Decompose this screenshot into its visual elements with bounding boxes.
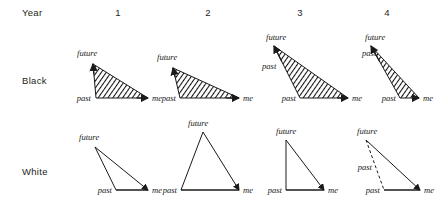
vertex-label-me-black-year-2: me <box>243 93 253 103</box>
vertex-label-future-white-year-2: future <box>188 118 208 128</box>
vertex-label-past-white-year-2: past <box>162 185 178 195</box>
vertex-label-past-black-year-3: past <box>261 61 277 71</box>
panel-white-year-4 <box>366 140 420 190</box>
vertex-label-future-black-year-1: future <box>77 48 97 58</box>
triangle-black-year-3 <box>274 46 348 98</box>
vertex-label-past-white-year-4: past <box>365 185 381 195</box>
vertex-label-past-white-year-3: past <box>267 185 283 195</box>
edge-future-past-white-year-2 <box>181 132 203 190</box>
vertex-label-past-black-year-2: past <box>161 93 177 103</box>
vertex-label-me-white-year-3: me <box>328 185 338 195</box>
vertex-label-me-white-year-2: me <box>243 185 253 195</box>
vertex-label-future-white-year-1: future <box>79 132 99 142</box>
triangle-black-year-2 <box>173 68 239 98</box>
edge-future-me-white-year-2 <box>203 132 239 190</box>
vertex-label-past-white-year-1: past <box>97 185 113 195</box>
vertex-label-me-white-year-1: me <box>152 185 162 195</box>
panel-black-year-1 <box>93 64 148 98</box>
figure-canvas: YearBlackWhite1234 futurepastmefuturepas… <box>0 0 439 208</box>
vertex-label-past-black-year-4: past <box>381 93 397 103</box>
vertex-label-future-white-year-4: future <box>357 126 377 136</box>
triangle-diagram: futurepastmefuturepastmefuturepastpastme… <box>0 0 439 208</box>
vertex-label-me-white-year-4: me <box>424 185 434 195</box>
edge-future-me-white-year-4 <box>366 140 420 190</box>
panel-black-year-4 <box>371 46 419 98</box>
vertex-label-past-black-year-3: past <box>281 93 297 103</box>
vertex-label-me-black-year-4: me <box>423 93 433 103</box>
vertex-label-past-black-year-1: past <box>76 93 92 103</box>
vertex-label-future-black-year-2: future <box>157 52 177 62</box>
triangle-black-year-1 <box>93 64 148 98</box>
vertex-label-future-black-year-4: future <box>365 32 385 42</box>
edge-future-me-white-year-1 <box>95 147 148 190</box>
panel-white-year-1 <box>95 147 148 190</box>
vertex-label-future-white-year-3: future <box>276 126 296 136</box>
vertex-label-me-black-year-1: me <box>152 93 162 103</box>
edge-future-past-white-year-1 <box>95 147 116 190</box>
panel-black-year-3 <box>274 46 348 98</box>
vertex-label-future-black-year-3: future <box>266 32 286 42</box>
panel-black-year-2 <box>173 68 239 98</box>
triangle-black-year-4 <box>371 46 419 98</box>
vertex-label-past-white-year-4: past <box>357 162 373 172</box>
panel-white-year-2 <box>181 132 239 190</box>
edge-future-me-white-year-3 <box>286 140 324 190</box>
panel-white-year-3 <box>286 140 324 190</box>
vertex-label-me-black-year-3: me <box>352 93 362 103</box>
vertex-label-past-black-year-4: past <box>361 48 377 58</box>
